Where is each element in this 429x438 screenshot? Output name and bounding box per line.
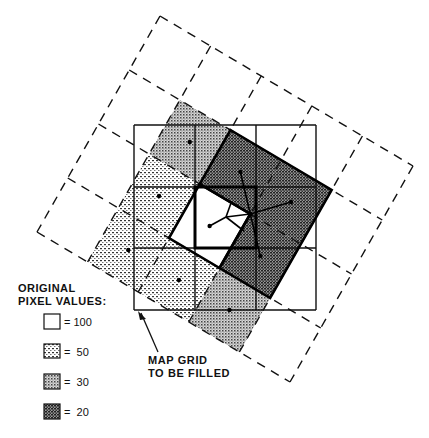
legend-swatch-20 xyxy=(44,404,60,419)
callout-arrowhead-icon xyxy=(138,311,146,320)
legend-swatch-100 xyxy=(44,314,60,329)
pixel-center-dot xyxy=(188,140,192,144)
legend-label-20: = 20 xyxy=(64,406,89,418)
legend-label-50: = 50 xyxy=(64,346,89,358)
legend-swatch-50 xyxy=(44,344,60,358)
legend-label-100: = 100 xyxy=(64,316,92,328)
pixel-center-dot xyxy=(157,194,161,198)
legend-title-line-2: PIXEL VALUES: xyxy=(18,295,107,307)
interpolation-hub-point xyxy=(248,212,253,217)
legend-title-line-1: ORIGINAL xyxy=(18,282,76,294)
pixel-center-dot xyxy=(126,248,130,252)
pixel-center-dot xyxy=(177,278,181,282)
legend: ORIGINAL PIXEL VALUES: = 100 = 50 = 30 =… xyxy=(18,282,107,419)
callout-line-1: MAP GRID xyxy=(148,354,208,366)
legend-swatch-30 xyxy=(44,374,60,389)
callout-line-2: TO BE FILLED xyxy=(148,367,230,379)
pixel-center-dot xyxy=(227,308,231,312)
legend-label-30: = 30 xyxy=(64,376,89,388)
resampling-diagram: MAP GRID TO BE FILLED ORIGINAL PIXEL VAL… xyxy=(0,0,429,438)
